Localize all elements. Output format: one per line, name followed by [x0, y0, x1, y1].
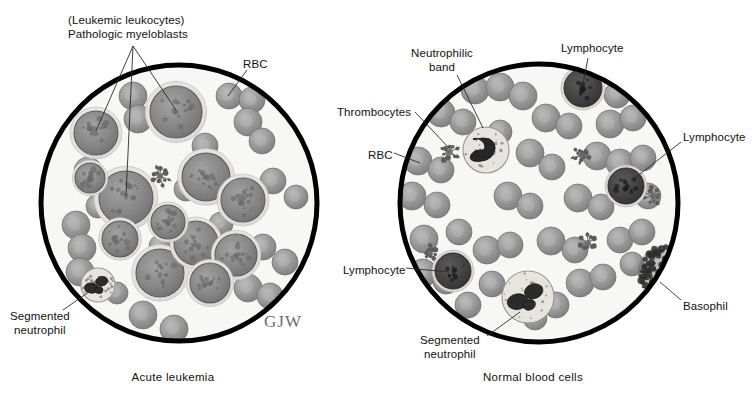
label-line: Lymphocyte: [561, 42, 624, 56]
label-right-rbc: RBC: [368, 149, 393, 163]
label-right-lymphocyte-left: Lymphocyte: [343, 264, 406, 278]
label-line: Neutrophilic: [411, 47, 473, 61]
pathologic-myeloblast: [148, 202, 188, 242]
red-blood-cell: [272, 249, 298, 275]
pathologic-myeloblast: [217, 174, 269, 226]
label-right-thrombocytes: Thrombocytes: [337, 106, 411, 120]
label-right-lymphocyte-top: Lymphocyte: [561, 42, 624, 56]
red-blood-cell: [473, 236, 501, 264]
label-right-lymphocyte-right: Lymphocyte: [683, 131, 746, 145]
label-line: Segmented: [420, 334, 480, 348]
pathologic-myeloblast: [72, 160, 107, 195]
artist-signature: GJW: [264, 312, 302, 332]
red-blood-cell: [497, 232, 523, 258]
red-blood-cell: [284, 185, 308, 209]
pathologic-myeloblast: [99, 218, 141, 260]
red-blood-cell: [517, 193, 543, 219]
label-line: neutrophil: [10, 324, 70, 338]
label-right-neutrophilic-band: Neutrophilicband: [411, 47, 473, 74]
label-line: (Leukemic leukocytes): [68, 14, 188, 28]
red-blood-cell: [629, 219, 655, 245]
label-right-basophil: Basophil: [683, 300, 728, 314]
label-left-rbc: RBC: [243, 58, 268, 72]
pathologic-myeloblast: [145, 81, 206, 142]
label-left-segmented-neutrophil: Segmentedneutrophil: [10, 310, 70, 337]
red-blood-cell: [216, 83, 242, 109]
segmented-neutrophil: [81, 268, 115, 302]
panel-acute-leukemia: [41, 65, 317, 343]
red-blood-cell: [428, 157, 454, 183]
label-line: Lymphocyte: [343, 264, 406, 278]
label-line: RBC: [243, 58, 268, 72]
red-blood-cell: [539, 154, 565, 180]
label-left-pathologic-myeloblasts: (Leukemic leukocytes)Pathologic myelobla…: [68, 14, 188, 41]
label-line: Thrombocytes: [337, 106, 411, 120]
caption-acute-leukemia: Acute leukemia: [113, 371, 233, 383]
red-blood-cell: [424, 192, 450, 218]
red-blood-cell: [566, 269, 594, 297]
label-line: neutrophil: [420, 348, 480, 362]
red-blood-cell: [249, 128, 275, 154]
blood-smear-figure: [0, 0, 754, 400]
label-line: band: [411, 61, 473, 75]
label-line: Segmented: [10, 310, 70, 324]
label-right-segmented-neutrophil: Segmentedneutrophil: [420, 334, 480, 361]
red-blood-cell: [129, 301, 157, 329]
pathologic-myeloblast: [70, 107, 122, 159]
label-line: Lymphocyte: [683, 131, 746, 145]
lymphocyte: [605, 165, 647, 207]
caption-normal-blood-cells: Normal blood cells: [463, 371, 603, 383]
red-blood-cell: [556, 113, 582, 139]
label-line: Pathologic myeloblasts: [68, 28, 188, 42]
red-blood-cell: [537, 227, 565, 255]
segmented-neutrophil: [502, 271, 554, 323]
red-blood-cell: [446, 219, 472, 245]
red-blood-cell: [590, 264, 616, 290]
red-blood-cell: [596, 110, 624, 138]
red-blood-cell: [509, 82, 537, 110]
neutrophilic-band: [463, 127, 509, 173]
label-line: RBC: [368, 149, 393, 163]
pathologic-myeloblast: [186, 259, 233, 306]
red-blood-cell: [479, 271, 505, 297]
label-line: Basophil: [683, 300, 728, 314]
